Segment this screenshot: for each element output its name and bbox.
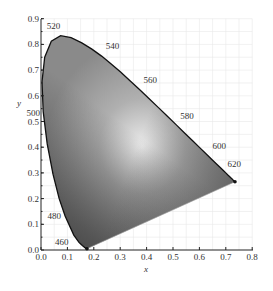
wavelength-label-520: 520 — [47, 21, 61, 31]
y-tick-label: 0.5 — [28, 117, 40, 127]
y-tick-label: 0.3 — [28, 168, 40, 178]
wavelength-label-600: 600 — [213, 141, 227, 151]
y-axis-title: y — [16, 98, 21, 108]
y-tick-label: 0.2 — [28, 194, 39, 204]
x-tick-label: 0.5 — [167, 252, 179, 262]
wavelength-label-460: 460 — [55, 237, 69, 247]
chromaticity-diagram: 0.00.10.20.30.40.50.60.70.80.00.10.20.30… — [0, 0, 273, 291]
y-tick-label: 0.8 — [28, 39, 40, 49]
y-tick-label: 0.9 — [28, 14, 40, 24]
wavelength-label-540: 540 — [106, 41, 120, 51]
x-tick-label: 0.4 — [141, 252, 153, 262]
y-tick-label: 0.6 — [28, 91, 40, 101]
wavelength-label-480: 480 — [48, 211, 62, 221]
wavelength-label-560: 560 — [143, 75, 157, 85]
x-tick-label: 0.1 — [62, 252, 73, 262]
x-tick-label: 0.8 — [247, 252, 259, 262]
x-tick-label: 0.3 — [115, 252, 127, 262]
y-tick-label: 0.1 — [28, 219, 39, 229]
wavelength-label-620: 620 — [227, 159, 241, 169]
wavelength-label-500: 500 — [27, 108, 41, 118]
y-tick-label: 0.7 — [28, 65, 40, 75]
spectral-locus-fill — [42, 36, 235, 249]
wavelength-label-580: 580 — [180, 111, 194, 121]
x-tick-label: 0.6 — [194, 252, 206, 262]
y-tick-label: 0.0 — [28, 245, 40, 255]
y-tick-label: 0.4 — [28, 142, 40, 152]
x-tick-label: 0.2 — [88, 252, 99, 262]
x-tick-label: 0.7 — [220, 252, 232, 262]
x-axis-title: x — [143, 264, 148, 274]
